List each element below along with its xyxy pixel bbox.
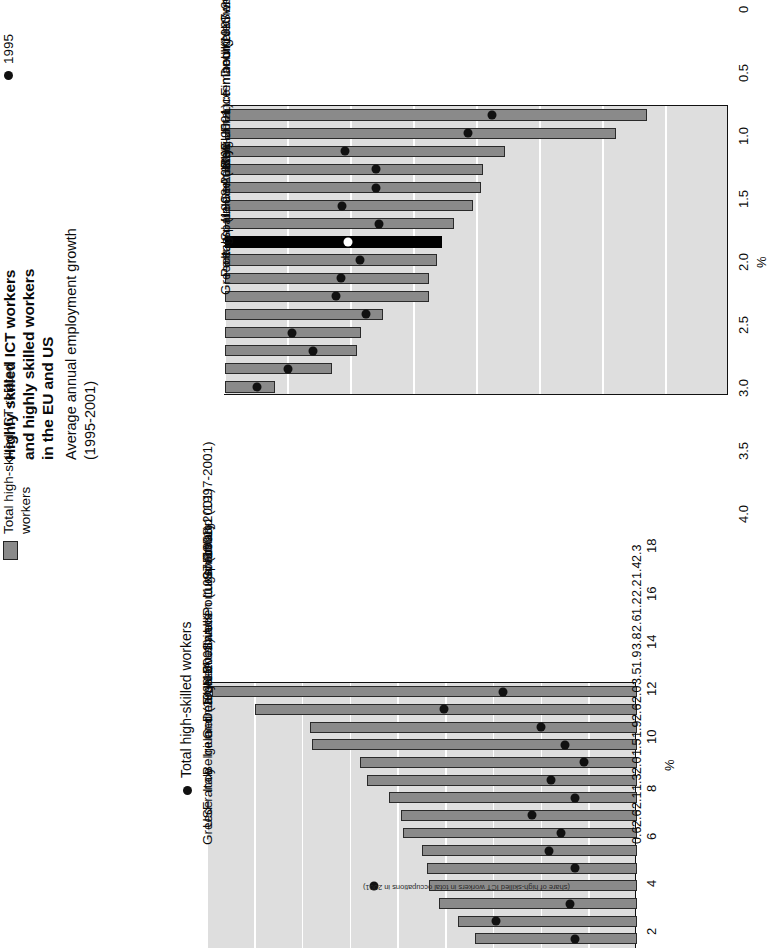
gridline bbox=[302, 683, 304, 948]
data-point bbox=[464, 129, 473, 138]
figure2-title-line-3: in the EU and US bbox=[38, 60, 57, 460]
bar bbox=[439, 898, 637, 909]
bar bbox=[225, 309, 383, 320]
dot-marker-icon bbox=[183, 786, 192, 795]
bar bbox=[427, 863, 637, 874]
bar bbox=[225, 164, 483, 175]
bar bbox=[225, 109, 647, 120]
axis-tick-label: 18 bbox=[644, 539, 659, 553]
data-point bbox=[527, 811, 536, 820]
bar-value-label: 1.3 bbox=[630, 774, 644, 791]
data-point bbox=[252, 382, 261, 391]
axis-tick-label: 4 bbox=[644, 880, 659, 887]
bar-value-label: 2.2 bbox=[630, 580, 644, 597]
axis-tick-label: 1.0 bbox=[736, 127, 751, 145]
bar bbox=[422, 845, 637, 856]
data-point bbox=[570, 934, 579, 943]
data-point bbox=[355, 256, 364, 265]
bar-value-label: 2.0 bbox=[630, 756, 644, 773]
high-skilled-legend: Total high-skilled ICT-related workers bbox=[0, 240, 34, 560]
data-point bbox=[284, 364, 293, 373]
axis-tick-label: 3.0 bbox=[736, 379, 751, 397]
bar bbox=[360, 757, 637, 768]
data-point bbox=[566, 899, 575, 908]
figure2-subtitle-line-1: Average annual employment growth bbox=[62, 60, 81, 460]
data-point bbox=[372, 183, 381, 192]
bar-value-label: 2.6 bbox=[630, 703, 644, 720]
axis-tick-label: 3.5 bbox=[736, 442, 751, 460]
gridline bbox=[539, 106, 541, 394]
data-point bbox=[331, 292, 340, 301]
high-skilled-plot bbox=[206, 682, 636, 948]
axis-tick-label: 2.5 bbox=[736, 316, 751, 334]
bar bbox=[225, 345, 357, 356]
bar bbox=[225, 254, 437, 265]
bar-value-label: 1.2 bbox=[630, 597, 644, 614]
figure-computer-workers: Computer workers in the EU and US Share … bbox=[0, 0, 775, 470]
bar bbox=[225, 291, 429, 302]
data-point bbox=[338, 201, 347, 210]
bar-value-label: 1.9 bbox=[630, 721, 644, 738]
axis-tick-label: 2 bbox=[644, 928, 659, 935]
data-point bbox=[570, 864, 579, 873]
bar-value-label: 3.5 bbox=[630, 668, 644, 685]
bar-value-label: 1.5 bbox=[630, 739, 644, 756]
bar bbox=[225, 128, 616, 139]
bar bbox=[403, 828, 637, 839]
data-point bbox=[492, 917, 501, 926]
data-point bbox=[287, 328, 296, 337]
data-point bbox=[336, 274, 345, 283]
bar-value-label: 1.4 bbox=[630, 562, 644, 579]
axis-tick-label: 12 bbox=[644, 682, 659, 696]
gridline bbox=[602, 106, 604, 394]
bar bbox=[225, 182, 481, 193]
data-point bbox=[561, 740, 570, 749]
bar bbox=[389, 792, 637, 803]
data-point bbox=[570, 793, 579, 802]
bar-value-label: 2.6 bbox=[630, 809, 644, 826]
data-point bbox=[499, 687, 508, 696]
gridline bbox=[254, 683, 256, 948]
data-point bbox=[580, 758, 589, 767]
figure-high-skilled-ict: Highly skilled ICT workers and highly sk… bbox=[0, 460, 775, 948]
figure2-subtitle-line-2: (1995-2001) bbox=[81, 60, 100, 460]
bar-value-label: 2.1 bbox=[630, 791, 644, 808]
legend-label-ict-related: Total high-skilled ICT-related workers bbox=[0, 364, 34, 534]
axis-tick-label: 2.0 bbox=[736, 253, 751, 271]
bar bbox=[225, 363, 332, 374]
bar bbox=[312, 739, 637, 750]
data-point bbox=[309, 346, 318, 355]
legend-item-ict-related: Total high-skilled ICT-related workers bbox=[0, 240, 34, 560]
bar bbox=[367, 775, 637, 786]
bar-value-label: 1.9 bbox=[630, 650, 644, 667]
bar bbox=[225, 381, 275, 392]
axis-tick-label: 0 bbox=[736, 6, 751, 13]
data-point bbox=[556, 829, 565, 838]
gridline bbox=[665, 106, 667, 394]
bar-value-label: 0.6 bbox=[630, 827, 644, 844]
inplot-legend-label: Total high-skilled workers bbox=[178, 622, 194, 778]
bar bbox=[401, 810, 638, 821]
axis-unit-label: % bbox=[662, 759, 677, 771]
bar-value-label: 3.8 bbox=[630, 633, 644, 650]
data-point bbox=[362, 310, 371, 319]
axis-tick-label: 10 bbox=[644, 730, 659, 744]
data-point bbox=[344, 237, 353, 246]
data-point bbox=[372, 165, 381, 174]
axis-tick-label: 6 bbox=[644, 832, 659, 839]
bar bbox=[225, 218, 454, 229]
bar bbox=[212, 686, 637, 697]
data-point bbox=[488, 111, 497, 120]
bar-value-label: 2.0 bbox=[630, 686, 644, 703]
computer-workers-plot bbox=[224, 105, 728, 395]
axis-unit-label: % bbox=[754, 256, 769, 268]
category-label: Greece bbox=[218, 251, 233, 295]
data-point bbox=[439, 705, 448, 714]
bar bbox=[225, 236, 442, 247]
value-axis-note: (share of high-skilled ICT workers in to… bbox=[363, 883, 570, 892]
bar bbox=[225, 273, 429, 284]
data-point bbox=[374, 219, 383, 228]
gridline bbox=[728, 106, 730, 394]
bar bbox=[458, 916, 637, 927]
bar bbox=[310, 722, 637, 733]
